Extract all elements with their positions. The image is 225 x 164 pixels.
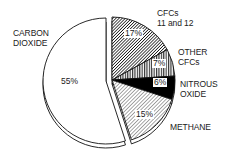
value-other-cfcs: 7% xyxy=(152,59,166,68)
value-carbon-dioxide: 55% xyxy=(60,77,79,86)
value-methane: 15% xyxy=(135,110,154,119)
value-cfcs-11-12: 17% xyxy=(124,29,143,38)
label-cfcs-11-12: CFCs 11 and 12 xyxy=(157,8,193,28)
label-carbon-dioxide: CARBON DIOXIDE xyxy=(13,28,49,48)
label-other-cfcs: OTHER CFCs xyxy=(178,47,207,67)
label-nitrous-oxide: NITROUS OXIDE xyxy=(180,79,218,99)
label-methane: METHANE xyxy=(170,122,211,132)
value-nitrous-oxide: 6% xyxy=(153,78,167,87)
